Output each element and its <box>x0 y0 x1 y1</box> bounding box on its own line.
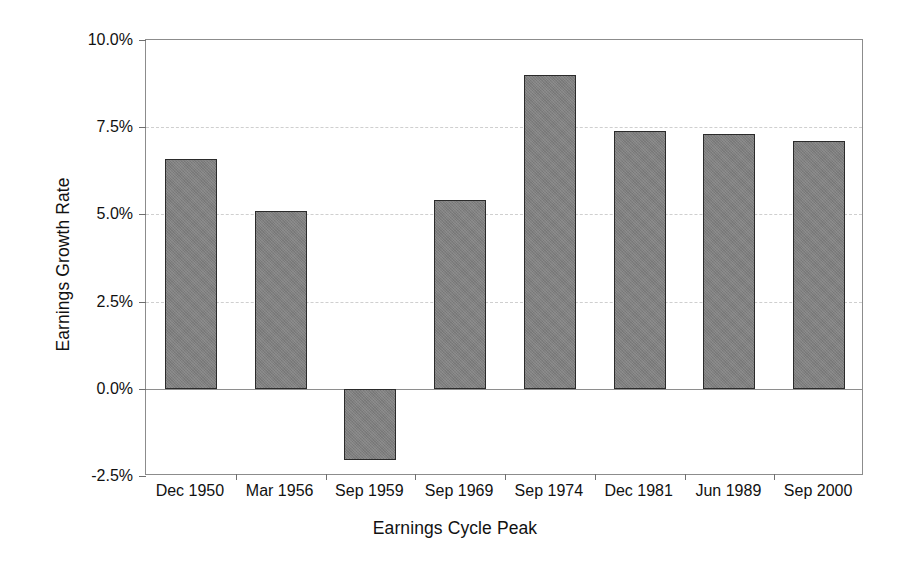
y-axis-tick: 7.5% <box>139 127 146 128</box>
y-gridline <box>146 127 862 128</box>
x-axis-category-label: Dec 1950 <box>145 482 235 500</box>
x-axis-category-label: Jun 1989 <box>684 482 774 500</box>
x-axis-tick <box>595 474 596 480</box>
y-axis-tick-label: 7.5% <box>97 118 133 136</box>
bar-chart-figure: Earnings Growth Rate 10.0%7.5%5.0%2.5%0.… <box>0 0 910 571</box>
bar <box>793 141 845 389</box>
y-axis-tick: -2.5% <box>139 476 146 477</box>
bar <box>344 389 396 461</box>
x-axis-tick <box>415 474 416 480</box>
x-axis-category-label: Sep 1969 <box>414 482 504 500</box>
x-axis-tick <box>326 474 327 480</box>
bar <box>614 131 666 389</box>
y-gridline <box>146 389 862 390</box>
x-axis-tick <box>236 474 237 480</box>
y-axis-tick-label: 5.0% <box>97 205 133 223</box>
x-axis-category-label: Sep 2000 <box>773 482 863 500</box>
y-axis-tick: 5.0% <box>139 214 146 215</box>
bar <box>165 159 217 389</box>
x-axis-tick <box>774 474 775 480</box>
y-axis-title: Earnings Growth Rate <box>53 50 74 480</box>
bar <box>703 134 755 389</box>
plot-area: 10.0%7.5%5.0%2.5%0.0%-2.5% <box>145 39 863 475</box>
y-axis-tick: 10.0% <box>139 40 146 41</box>
y-axis-tick-label: 2.5% <box>97 293 133 311</box>
y-axis-tick: 2.5% <box>139 302 146 303</box>
x-axis-category-label: Sep 1974 <box>504 482 594 500</box>
x-axis-category-label: Mar 1956 <box>235 482 325 500</box>
y-axis-tick: 0.0% <box>139 389 146 390</box>
bar <box>434 200 486 388</box>
bar <box>524 75 576 389</box>
x-axis-tick <box>505 474 506 480</box>
x-axis-tick <box>685 474 686 480</box>
x-axis-category-label: Sep 1959 <box>325 482 415 500</box>
y-axis-tick-label: -2.5% <box>91 467 133 485</box>
y-axis-tick-label: 0.0% <box>97 380 133 398</box>
y-axis-tick-label: 10.0% <box>88 31 133 49</box>
x-axis-title: Earnings Cycle Peak <box>0 518 910 539</box>
x-axis-category-label: Dec 1981 <box>594 482 684 500</box>
bar <box>255 211 307 389</box>
